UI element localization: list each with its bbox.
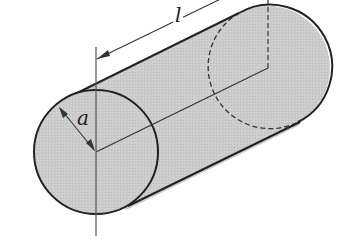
cylinder-diagram: a l — [0, 0, 354, 249]
length-label: l — [173, 5, 183, 25]
length-arrowhead-icon — [97, 50, 110, 59]
cylinder-figure — [0, 0, 354, 249]
radius-label: a — [77, 108, 89, 128]
